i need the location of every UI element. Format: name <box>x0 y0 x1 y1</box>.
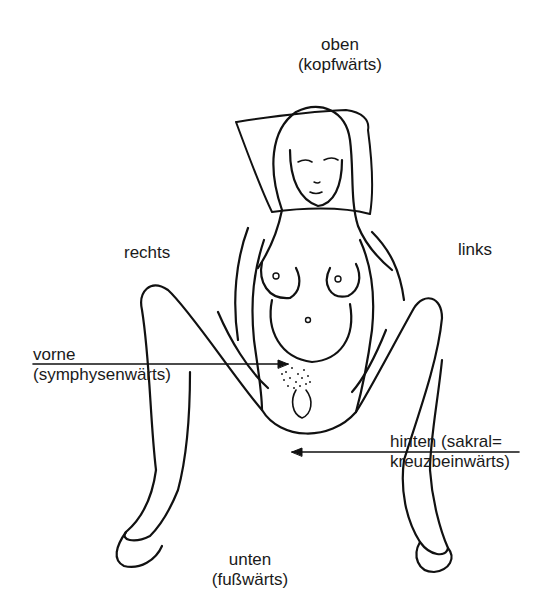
hair <box>273 107 392 270</box>
figure-illustration <box>0 0 550 612</box>
leg-right-shin <box>125 372 190 540</box>
pubic-hair-stipple <box>281 367 311 389</box>
label-bottom-sub: (fußwärts) <box>200 570 300 590</box>
label-front-sub: (symphysenwärts) <box>33 365 171 385</box>
label-bottom-main: unten <box>200 550 300 570</box>
breast-left <box>327 264 359 297</box>
label-top-sub: (kopfwärts) <box>290 55 390 75</box>
label-top-main: oben <box>290 35 390 55</box>
arm-right <box>235 228 248 340</box>
belly <box>271 300 352 362</box>
breast-right <box>261 262 299 298</box>
label-front: vorne (symphysenwärts) <box>33 345 171 385</box>
label-right-side: rechts <box>124 243 170 263</box>
label-back: hinten (sakral= kreuzbeinwärts) <box>390 432 510 472</box>
label-front-main: vorne <box>33 345 171 365</box>
foot-right <box>117 532 162 567</box>
label-top: oben (kopfwärts) <box>290 35 390 75</box>
label-bottom: unten (fußwärts) <box>200 550 300 590</box>
label-back-sub: kreuzbeinwärts) <box>390 452 510 472</box>
vulva <box>293 390 311 418</box>
label-left-side: links <box>458 240 492 260</box>
label-back-main: hinten (sakral= <box>390 432 510 452</box>
